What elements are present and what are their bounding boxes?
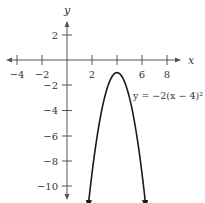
equation-label: y = −2(x − 4)² − 1 bbox=[132, 90, 205, 101]
x-tick-label: 6 bbox=[139, 69, 145, 80]
x-axis-label: x bbox=[188, 54, 195, 67]
parabola-chart: −4 −2 2 6 8 x 2 −2 −4 −6 −8 −10 y y = −2… bbox=[0, 0, 205, 203]
x-tick-label: −4 bbox=[10, 69, 25, 80]
y-tick-label: −4 bbox=[43, 105, 58, 116]
x-tick-label: 8 bbox=[164, 69, 170, 80]
x-axis: −4 −2 2 6 8 x bbox=[6, 54, 195, 80]
y-axis: 2 −2 −4 −6 −8 −10 y bbox=[37, 4, 72, 200]
x-tick-label: 2 bbox=[89, 69, 95, 80]
y-axis-down-arrow-icon bbox=[65, 194, 70, 200]
y-axis-label: y bbox=[63, 4, 71, 17]
y-tick-label: −2 bbox=[43, 80, 58, 91]
y-tick-label: −8 bbox=[43, 156, 58, 167]
x-axis-left-arrow-icon bbox=[6, 58, 12, 63]
y-tick-label: 2 bbox=[52, 30, 58, 41]
x-tick-label: −2 bbox=[35, 69, 50, 80]
y-tick-label: −6 bbox=[43, 131, 58, 142]
y-tick-label: −10 bbox=[37, 181, 58, 192]
